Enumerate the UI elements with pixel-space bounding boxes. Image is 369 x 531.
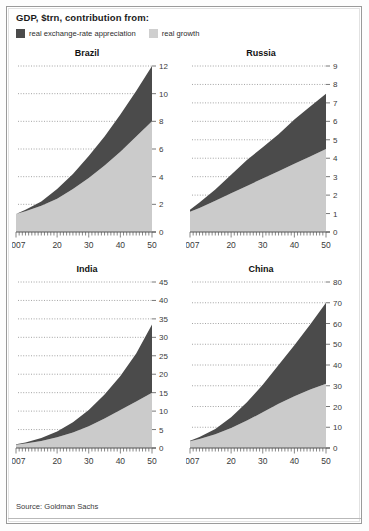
- chart-svg: 051015202530354045200720304050: [12, 276, 188, 476]
- plot-area-india: 051015202530354045200720304050: [12, 276, 188, 476]
- x-tick-label: 2007: [12, 456, 26, 466]
- chart-svg: 0123456789200720304050: [186, 60, 362, 260]
- x-tick-label: 20: [52, 240, 62, 250]
- y-tick-label: 25: [159, 352, 168, 361]
- chart-panel-india: India 051015202530354045200720304050: [12, 264, 188, 482]
- x-tick-label: 40: [116, 456, 126, 466]
- y-tick-label: 70: [333, 299, 342, 308]
- y-tick-label: 12: [159, 62, 168, 71]
- y-tick-label: 6: [333, 117, 338, 126]
- y-tick-label: 7: [333, 99, 338, 108]
- legend-swatch-growth: [149, 29, 158, 38]
- y-tick-label: 0: [333, 228, 338, 237]
- y-tick-label: 60: [333, 320, 342, 329]
- y-tick-label: 35: [159, 315, 168, 324]
- y-tick-label: 8: [159, 117, 164, 126]
- x-tick-label: 30: [84, 240, 94, 250]
- y-tick-label: 9: [333, 62, 338, 71]
- footer-divider: [8, 518, 361, 519]
- y-tick-label: 2: [159, 200, 164, 209]
- legend-item-growth: real growth: [149, 29, 200, 38]
- y-tick-label: 30: [159, 333, 168, 342]
- source-note: Source: Goldman Sachs: [16, 502, 98, 511]
- legend: real exchange-rate appreciation real gro…: [16, 29, 346, 38]
- legend-label-fx: real exchange-rate appreciation: [29, 29, 136, 38]
- legend-swatch-fx: [16, 29, 25, 38]
- y-tick-label: 8: [333, 80, 338, 89]
- plot-area-china: 01020304050607080200720304050: [186, 276, 362, 476]
- x-tick-label: 20: [226, 240, 236, 250]
- x-tick-label: 20: [226, 456, 236, 466]
- x-tick-label: 50: [321, 240, 331, 250]
- y-tick-label: 10: [159, 90, 168, 99]
- y-tick-label: 3: [333, 173, 338, 182]
- y-tick-label: 2: [333, 191, 338, 200]
- x-tick-label: 40: [116, 240, 126, 250]
- legend-item-fx: real exchange-rate appreciation: [16, 29, 136, 38]
- y-tick-label: 5: [333, 136, 338, 145]
- chart-title-india: India: [12, 264, 162, 274]
- x-tick-label: 40: [290, 456, 300, 466]
- y-tick-label: 40: [159, 296, 168, 305]
- y-tick-label: 4: [333, 154, 338, 163]
- x-tick-label: 50: [147, 240, 157, 250]
- x-tick-label: 2007: [12, 240, 26, 250]
- x-tick-label: 20: [52, 456, 62, 466]
- y-tick-label: 80: [333, 278, 342, 287]
- y-tick-label: 1: [333, 210, 338, 219]
- chart-svg: 01020304050607080200720304050: [186, 276, 362, 476]
- figure-page: GDP, $trn, contribution from: real excha…: [0, 0, 369, 531]
- x-tick-label: 40: [290, 240, 300, 250]
- page-title: GDP, $trn, contribution from:: [16, 12, 346, 23]
- x-tick-label: 30: [258, 240, 268, 250]
- y-tick-label: 10: [159, 407, 168, 416]
- y-tick-label: 20: [333, 403, 342, 412]
- y-tick-label: 4: [159, 173, 164, 182]
- chart-panel-russia: Russia 0123456789200720304050: [186, 48, 362, 266]
- y-tick-label: 30: [333, 382, 342, 391]
- figure-header: GDP, $trn, contribution from: real excha…: [16, 12, 346, 38]
- chart-grid: Brazil 024681012200720304050 Russia 0123…: [8, 48, 361, 484]
- y-tick-label: 10: [333, 423, 342, 432]
- plot-area-russia: 0123456789200720304050: [186, 60, 362, 260]
- chart-svg: 024681012200720304050: [12, 60, 188, 260]
- x-tick-label: 50: [321, 456, 331, 466]
- chart-title-brazil: Brazil: [12, 48, 162, 58]
- y-tick-label: 0: [159, 444, 164, 453]
- x-tick-label: 2007: [186, 456, 200, 466]
- chart-panel-china: China 01020304050607080200720304050: [186, 264, 362, 482]
- chart-title-china: China: [186, 264, 336, 274]
- y-tick-label: 20: [159, 370, 168, 379]
- y-tick-label: 50: [333, 340, 342, 349]
- y-tick-label: 6: [159, 145, 164, 154]
- x-tick-label: 50: [147, 456, 157, 466]
- legend-label-growth: real growth: [162, 29, 200, 38]
- plot-area-brazil: 024681012200720304050: [12, 60, 188, 260]
- chart-panel-brazil: Brazil 024681012200720304050: [12, 48, 188, 266]
- y-tick-label: 5: [159, 426, 164, 435]
- x-tick-label: 2007: [186, 240, 200, 250]
- y-tick-label: 0: [159, 228, 164, 237]
- x-tick-label: 30: [258, 456, 268, 466]
- y-tick-label: 0: [333, 444, 338, 453]
- y-tick-label: 40: [333, 361, 342, 370]
- y-tick-label: 15: [159, 389, 168, 398]
- x-tick-label: 30: [84, 456, 94, 466]
- y-tick-label: 45: [159, 278, 168, 287]
- chart-title-russia: Russia: [186, 48, 336, 58]
